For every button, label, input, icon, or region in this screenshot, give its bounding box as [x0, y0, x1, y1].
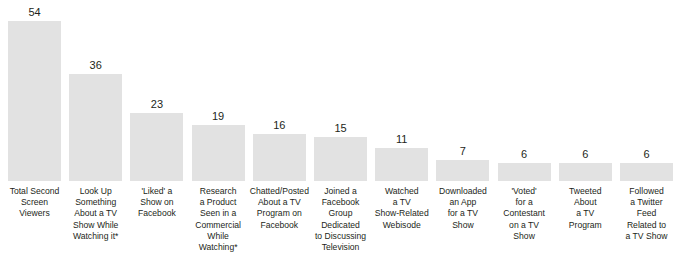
bar-column[interactable]: 36Look UpSomethingAbout a TVShow WhileWa…: [65, 0, 126, 271]
bar-rect[interactable]: [130, 113, 183, 181]
bar-column[interactable]: 19Researcha ProductSeen in aCommercialWh…: [188, 0, 249, 271]
bar-category-label-line: Screen: [21, 197, 48, 207]
bar-category-label-line: 'Voted': [511, 186, 536, 196]
bar-category-label-line: Facebook: [138, 208, 176, 218]
bar-category-label-line: Joined a: [324, 186, 357, 196]
bar-category-label-line: to Discussing: [315, 231, 366, 241]
bar-column[interactable]: 6TweetedAbouta TVProgram: [555, 0, 616, 271]
bar-category-label-line: Look Up: [80, 186, 112, 196]
bar-category-label-line: Contestant: [503, 208, 545, 218]
bar-rect[interactable]: [192, 125, 245, 181]
bar-category-label-line: a TV: [576, 208, 594, 218]
bar-column[interactable]: 23'Liked' aShow onFacebook: [126, 0, 187, 271]
bar-category-label-line: Viewers: [19, 208, 49, 218]
bar-value-label: 6: [616, 149, 677, 160]
bar-category-label-line: While: [207, 231, 229, 241]
bar-rect[interactable]: [436, 160, 489, 181]
bar-category-label-line: on a TV: [509, 220, 539, 230]
bar-rect[interactable]: [498, 163, 551, 181]
bar-category-label-line: Program: [569, 220, 602, 230]
bar-rect[interactable]: [69, 74, 122, 181]
bar-category-label-line: About a TV: [258, 197, 301, 207]
bar-category-label-line: Webisode: [383, 220, 421, 230]
bar-rect[interactable]: [620, 163, 673, 181]
bar-category-label-line: Watching it*: [73, 231, 119, 241]
bar-category-label-line: Followed: [629, 186, 663, 196]
bar-category-label-line: Show While: [73, 220, 118, 230]
bar-category-label: Watcheda TVShow-RelatedWebisode: [370, 186, 433, 231]
bar-category-label-line: About a TV: [74, 208, 117, 218]
bar-column[interactable]: 15Joined aFacebookGroupDedicatedto Discu…: [310, 0, 371, 271]
bar-category-label: Chatted/PostedAbout a TVProgram onFacebo…: [248, 186, 311, 231]
bar-column[interactable]: 6Followeda TwitterFeedRelated toa TV Sho…: [616, 0, 677, 271]
bar-category-label-line: Downloaded: [439, 186, 487, 196]
bar-value-label: 11: [371, 134, 432, 145]
bar-category-label-line: Program on: [257, 208, 302, 218]
bar-category-label-line: Watching*: [199, 242, 238, 252]
bar-value-label: 16: [249, 120, 310, 131]
bar-category-label-line: Show: [513, 231, 535, 241]
bar-category-label-line: a Twitter: [630, 197, 662, 207]
bar-rect[interactable]: [375, 148, 428, 181]
bar-category-label-line: for a: [515, 197, 532, 207]
bar-category-label-line: for a TV: [448, 208, 478, 218]
bar-category-label: Downloadedan Appfor a TVShow: [431, 186, 494, 231]
bar-category-label-line: Seen in a: [200, 208, 236, 218]
bar-category-label-line: a Product: [200, 197, 237, 207]
bar-category-label-line: Related to: [627, 220, 666, 230]
bar-category-label: Followeda TwitterFeedRelated toa TV Show: [615, 186, 677, 242]
bar-value-label: 6: [494, 149, 555, 160]
bar-rect[interactable]: [314, 137, 367, 181]
bar-category-label-line: Chatted/Posted: [250, 186, 309, 196]
bar-value-label: 15: [310, 123, 371, 134]
bar-category-label-line: an App: [450, 197, 477, 207]
bar-category-label: Total SecondScreenViewers: [3, 186, 66, 220]
chart-footnote-cropped: [0, 266, 677, 271]
bar-column[interactable]: 16Chatted/PostedAbout a TVProgram onFace…: [249, 0, 310, 271]
bar-value-label: 54: [4, 7, 65, 18]
bar-category-label-line: a TV Show: [626, 231, 668, 241]
bar-column[interactable]: 11Watcheda TVShow-RelatedWebisode: [371, 0, 432, 271]
bar-value-label: 6: [555, 149, 616, 160]
bar-category-label: 'Voted'for aContestanton a TVShow: [493, 186, 556, 242]
bar-category-label-line: About: [574, 197, 596, 207]
bar-category-label: Joined aFacebookGroupDedicatedto Discuss…: [309, 186, 372, 253]
bar-category-label-line: Total Second: [10, 186, 60, 196]
bar-category-label: Look UpSomethingAbout a TVShow WhileWatc…: [64, 186, 127, 242]
bar-rect[interactable]: [8, 21, 61, 181]
plot-area: 54Total SecondScreenViewers36Look UpSome…: [0, 0, 677, 271]
bar-category-label-line: Group: [329, 208, 353, 218]
bar-column[interactable]: 6'Voted'for aContestanton a TVShow: [494, 0, 555, 271]
bar-category-label-line: Watched: [385, 186, 419, 196]
bar-category-label: 'Liked' aShow onFacebook: [125, 186, 188, 220]
bar-chart: 54Total SecondScreenViewers36Look UpSome…: [0, 0, 677, 271]
bar-value-label: 7: [432, 146, 493, 157]
bar-category-label-line: Show: [452, 220, 474, 230]
bar-category-label-line: Facebook: [260, 220, 298, 230]
bar-category-label-line: Tweeted: [569, 186, 602, 196]
bar-category-label-line: 'Liked' a: [141, 186, 172, 196]
bar-category-label-line: Show-Related: [375, 208, 429, 218]
bar-category-label-line: Dedicated: [321, 220, 360, 230]
bar-value-label: 36: [65, 60, 126, 71]
bar-category-label-line: Facebook: [322, 197, 360, 207]
bar-category-label-line: Research: [200, 186, 237, 196]
bar-column[interactable]: 7Downloadedan Appfor a TVShow: [432, 0, 493, 271]
bar-column[interactable]: 54Total SecondScreenViewers: [4, 0, 65, 271]
bar-rect[interactable]: [253, 134, 306, 181]
bar-rect[interactable]: [559, 163, 612, 181]
bar-category-label-line: Commercial: [195, 220, 241, 230]
bar-category-label: TweetedAbouta TVProgram: [554, 186, 617, 231]
bar-category-label-line: Show on: [140, 197, 173, 207]
bar-category-label-line: Television: [322, 242, 360, 252]
bar-category-label: Researcha ProductSeen in aCommercialWhil…: [187, 186, 250, 253]
bar-category-label-line: Feed: [637, 208, 657, 218]
bar-category-label-line: Something: [75, 197, 116, 207]
bar-value-label: 23: [126, 99, 187, 110]
bar-value-label: 19: [188, 111, 249, 122]
bar-category-label-line: a TV: [393, 197, 411, 207]
